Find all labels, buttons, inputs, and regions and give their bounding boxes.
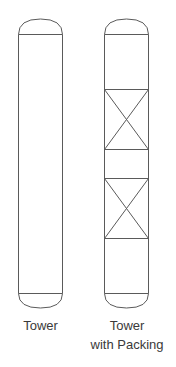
- tower-diagram: [0, 0, 176, 367]
- packed-tower-label-line-2: with Packing: [86, 337, 168, 352]
- packed-tower-label: Tower with Packing: [86, 318, 168, 352]
- tower-label-line-1: Tower: [10, 318, 71, 333]
- packing-section-upper: [105, 90, 149, 150]
- plain-tower: [19, 19, 63, 308]
- packed-tower-label-line-1: Tower: [86, 318, 168, 333]
- packed-tower: [105, 19, 149, 308]
- tower-label: Tower: [10, 318, 71, 333]
- tower-bottom-head: [19, 294, 63, 309]
- packed-tower-top-head: [105, 19, 149, 35]
- packing-section-lower: [105, 179, 149, 239]
- tower-top-head: [19, 19, 63, 35]
- packed-tower-bottom-head: [105, 294, 149, 309]
